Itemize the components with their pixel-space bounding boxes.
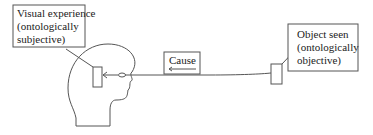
object-seen-line-1: Object seen	[297, 28, 349, 40]
object-marker	[271, 64, 282, 84]
object-seen-line-3: objective)	[297, 54, 341, 67]
cause-label: Cause	[169, 54, 196, 66]
visual-experience-line-1: Visual experience	[17, 7, 96, 19]
perception-diagram: Visual experience (ontologically subject…	[0, 0, 373, 135]
object-seen-line-2: (ontologically	[297, 41, 359, 54]
experience-label-connector	[66, 49, 93, 67]
eye-icon	[119, 73, 126, 77]
visual-experience-line-3: subjective)	[17, 33, 66, 46]
visual-experience-line-2: (ontologically	[17, 20, 79, 33]
visual-experience-marker	[93, 67, 102, 87]
